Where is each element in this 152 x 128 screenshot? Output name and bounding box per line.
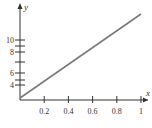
x-tick-label: 0.8 <box>112 107 122 116</box>
y-tick-label: 8 <box>10 48 14 57</box>
series-line <box>20 14 141 98</box>
x-tick-label: 0.2 <box>39 107 49 116</box>
y-axis-arrow-icon <box>18 3 23 9</box>
x-axis-arrow-icon <box>143 98 148 103</box>
y-tick-label: 4 <box>10 81 14 90</box>
y-tick-label: 6 <box>10 69 14 78</box>
x-axis-label: x <box>145 88 150 98</box>
x-tick-label: 0.6 <box>88 107 98 116</box>
x-tick-label: 1 <box>139 107 143 116</box>
x-tick-label: 0.4 <box>63 107 73 116</box>
line-chart: y x 0.20.40.60.81 46810 <box>0 0 152 128</box>
y-axis-label: y <box>23 2 28 12</box>
y-tick-label: 10 <box>6 36 14 45</box>
